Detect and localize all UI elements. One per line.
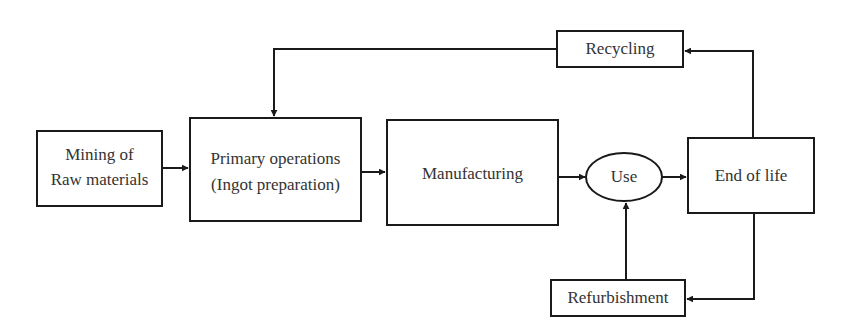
node-primary-line-1: Primary operations — [211, 149, 341, 168]
node-end-of-life: End of life — [688, 138, 814, 213]
material-lifecycle-diagram: Mining of Raw materials Primary operatio… — [0, 0, 855, 335]
edge-end-of-life-to-refurbishment — [687, 213, 754, 299]
node-primary-operations: Primary operations (Ingot preparation) — [190, 118, 361, 221]
node-manufacturing-label: Manufacturing — [422, 164, 524, 183]
node-primary-line-2: (Ingot preparation) — [211, 175, 340, 194]
node-refurbishment-label: Refurbishment — [567, 288, 668, 307]
node-manufacturing: Manufacturing — [387, 120, 558, 225]
edge-end-of-life-to-recycling — [685, 51, 753, 138]
node-use-label: Use — [611, 167, 637, 186]
node-use: Use — [586, 153, 662, 201]
node-recycling-label: Recycling — [586, 39, 655, 58]
node-recycling: Recycling — [557, 31, 683, 67]
node-mining-raw-materials: Mining of Raw materials — [37, 131, 162, 206]
node-mining-line-1: Mining of — [65, 145, 134, 164]
node-mining-line-2: Raw materials — [51, 170, 149, 189]
edge-recycling-to-primary — [274, 49, 557, 116]
node-refurbishment: Refurbishment — [551, 280, 685, 316]
node-end-of-life-label: End of life — [715, 166, 788, 185]
